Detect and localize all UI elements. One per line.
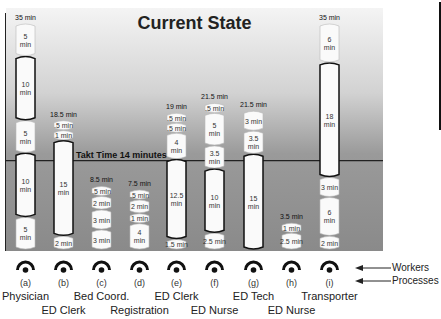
segment-label: min xyxy=(324,44,335,51)
segment-label: min xyxy=(209,158,220,165)
segment-label: 2 min xyxy=(131,203,148,210)
worker-dot xyxy=(251,267,257,273)
segment-label: 2.5 min xyxy=(203,238,226,245)
bar-segment xyxy=(16,121,35,153)
segment-label: min xyxy=(248,143,259,150)
process-letter: (a) xyxy=(20,278,31,288)
segment-label: 5 xyxy=(24,130,28,137)
segment-label: .5 min xyxy=(54,122,73,129)
worker-dot xyxy=(23,267,29,273)
role-label: Transporter xyxy=(301,290,358,302)
bar-total-label: 35 min xyxy=(15,14,36,21)
bar-total-label: 3.5 min xyxy=(280,213,303,220)
segment-label: 10 xyxy=(22,178,30,185)
segment-label: .5 min xyxy=(130,192,149,199)
segment-label: 2 min xyxy=(93,200,110,207)
segment-label: min xyxy=(20,138,31,145)
segment-label: 5 xyxy=(24,226,28,233)
segment-label: 2 min xyxy=(321,240,338,247)
segment-label: 5 xyxy=(213,122,217,129)
segment-label: 2 min xyxy=(55,240,72,247)
segment-label: 3 min xyxy=(321,184,338,191)
segment-label: min xyxy=(209,202,220,209)
segment-label: 15 xyxy=(60,181,68,188)
legend-label: Processes xyxy=(392,275,439,286)
role-label: ED Tech xyxy=(233,290,274,302)
segment-label: 6 xyxy=(328,36,332,43)
segment-label: .5 min xyxy=(92,188,111,195)
bar-total-label: 19 min xyxy=(166,103,187,110)
segment-label: 10 xyxy=(22,81,30,88)
role-label: Physician xyxy=(2,290,49,302)
segment-label: 1.5 min xyxy=(165,241,188,248)
segment-label: min xyxy=(20,41,31,48)
segment-label: 3 min xyxy=(93,237,110,244)
takt-label: Takt Time 14 minutes xyxy=(76,150,167,160)
bar-total-label: 7.5 min xyxy=(128,180,151,187)
bar-total-label: 35 min xyxy=(319,14,340,21)
role-label: ED Nurse xyxy=(268,304,316,316)
segment-label: .5 min xyxy=(167,115,186,122)
segment-label: min xyxy=(324,217,335,224)
role-label: Bed Coord. xyxy=(74,290,130,302)
segment-label: min xyxy=(209,130,220,137)
segment-label: 18 xyxy=(326,113,334,120)
bar-total-label: 8.5 min xyxy=(90,176,113,183)
segment-label: 3 min xyxy=(245,118,262,125)
segment-label: min xyxy=(20,234,31,241)
process-letter: (b) xyxy=(58,278,69,288)
segment-label: min xyxy=(20,89,31,96)
segment-label: 10 xyxy=(211,194,219,201)
worker-dot xyxy=(174,267,180,273)
process-letter: (g) xyxy=(248,278,259,288)
process-letter: (d) xyxy=(134,278,145,288)
segment-label: .5 min xyxy=(205,105,224,112)
segment-label: min xyxy=(20,186,31,193)
legend-workers: Workers xyxy=(392,262,429,273)
worker-dot xyxy=(327,267,333,273)
role-label: ED Clerk xyxy=(154,290,199,302)
arrow-left-icon xyxy=(355,265,391,271)
segment-label: 3.5 xyxy=(210,150,220,157)
role-label: Registration xyxy=(110,304,169,316)
process-letter: (h) xyxy=(286,278,297,288)
bar-total-label: 18.5 min xyxy=(50,111,77,118)
segment-label: 1 min xyxy=(131,215,148,222)
segment-label: .5 min xyxy=(167,125,186,132)
segment-label: 12.5 xyxy=(170,192,184,199)
legend-arrows xyxy=(355,262,391,288)
segment-label: 1 min xyxy=(283,225,300,232)
segment-label: min xyxy=(58,189,69,196)
worker-dot xyxy=(137,267,143,273)
process-letter: (i) xyxy=(326,278,334,288)
segment-label: 1 min xyxy=(55,132,72,139)
role-label: ED Nurse xyxy=(191,304,239,316)
legend-processes: Processes xyxy=(392,275,439,286)
segment-label: 3.5 xyxy=(249,135,259,142)
segment-label: 2.5 min xyxy=(280,238,303,245)
legend-label: Workers xyxy=(392,262,429,273)
segment-label: min xyxy=(171,200,182,207)
segment-label: 3 min xyxy=(93,217,110,224)
segment-label: min xyxy=(171,147,182,154)
bar-total-label: 21.5 min xyxy=(201,93,228,100)
segment-label: 5 xyxy=(24,33,28,40)
segment-label: min xyxy=(248,203,259,210)
worker-dot xyxy=(99,267,105,273)
role-label: ED Clerk xyxy=(41,304,86,316)
segment-label: min xyxy=(134,237,145,244)
segment-label: min xyxy=(324,121,335,128)
segment-label: 15 xyxy=(250,195,258,202)
process-letter: (e) xyxy=(171,278,182,288)
worker-dot xyxy=(289,267,295,273)
worker-dot xyxy=(61,267,67,273)
worker-dot xyxy=(212,267,218,273)
bar-total-label: 21.5 min xyxy=(240,101,267,108)
segment-label: 4 xyxy=(138,229,142,236)
arrow-left-icon xyxy=(355,278,391,284)
segment-label: 6 xyxy=(328,209,332,216)
segment-label: 4 xyxy=(175,139,179,146)
process-letter: (f) xyxy=(210,278,219,288)
process-letter: (c) xyxy=(96,278,107,288)
